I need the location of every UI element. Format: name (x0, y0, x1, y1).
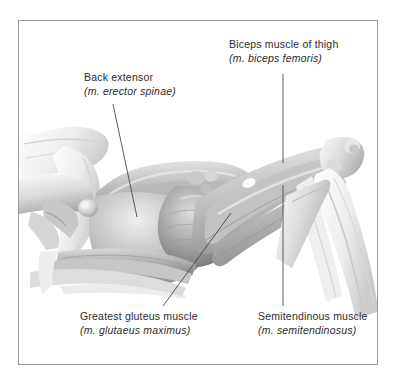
label-biceps-femoris-latin: (m. biceps femoris) (229, 52, 338, 66)
label-erector-spinae: Back extensor (m. erector spinae) (84, 71, 176, 98)
label-glutaeus-maximus-latin: (m. glutaeus maximus) (80, 324, 198, 338)
label-semitendinosus: Semitendinous muscle (m. semitendinosus) (258, 310, 368, 337)
label-biceps-femoris: Biceps muscle of thigh (m. biceps femori… (229, 38, 338, 65)
label-semitendinosus-latin: (m. semitendinosus) (258, 324, 368, 338)
label-erector-spinae-common: Back extensor (84, 71, 176, 85)
label-glutaeus-maximus-common: Greatest gluteus muscle (80, 310, 198, 324)
label-biceps-femoris-common: Biceps muscle of thigh (229, 38, 338, 52)
label-erector-spinae-latin: (m. erector spinae) (84, 85, 176, 99)
label-glutaeus-maximus: Greatest gluteus muscle (m. glutaeus max… (80, 310, 198, 337)
figure-page: Biceps muscle of thigh (m. biceps femori… (0, 0, 405, 385)
label-semitendinosus-common: Semitendinous muscle (258, 310, 368, 324)
